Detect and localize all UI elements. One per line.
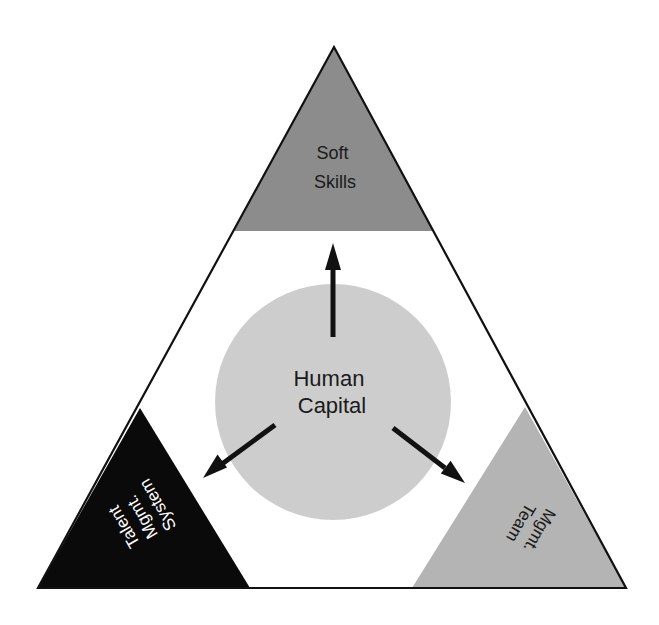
soft-skills-line-2: Skills bbox=[314, 172, 356, 192]
soft-skills-line-1: Soft bbox=[316, 143, 348, 163]
human-capital-line-1: Human bbox=[293, 366, 364, 391]
human-capital-line-2: Capital bbox=[298, 393, 366, 418]
soft-skills-region bbox=[234, 47, 434, 231]
human-capital-diagram: Soft Skills Human Capital Talent Mgmt. S… bbox=[0, 0, 659, 625]
